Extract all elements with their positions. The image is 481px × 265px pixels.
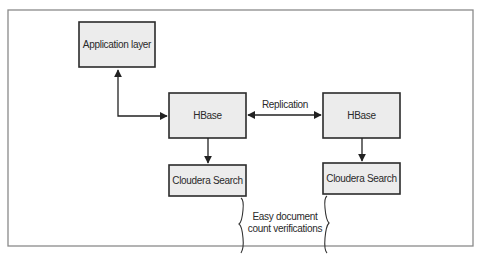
architecture-diagram: Application layer HBase HBase Cloudera S… (0, 0, 481, 265)
cloudera-search-right-label: Cloudera Search (326, 173, 397, 184)
cloudera-search-left-node: Cloudera Search (169, 165, 246, 196)
app-hbase-connector (118, 70, 167, 116)
hbase-left-node: HBase (169, 93, 246, 138)
cloudera-search-right-node: Cloudera Search (323, 163, 400, 194)
left-curly-brace (239, 198, 243, 253)
right-curly-brace (325, 196, 329, 253)
application-layer-node: Application layer (79, 22, 155, 67)
annotation-line-1: Easy document (252, 211, 318, 222)
hbase-right-node: HBase (323, 93, 400, 138)
hbase-left-label: HBase (193, 110, 222, 121)
hbase-right-label: HBase (347, 110, 376, 121)
cloudera-search-left-label: Cloudera Search (172, 175, 243, 186)
replication-label: Replication (262, 99, 308, 110)
application-layer-label: Application layer (83, 39, 152, 50)
annotation-line-2: count verifications (248, 223, 323, 234)
